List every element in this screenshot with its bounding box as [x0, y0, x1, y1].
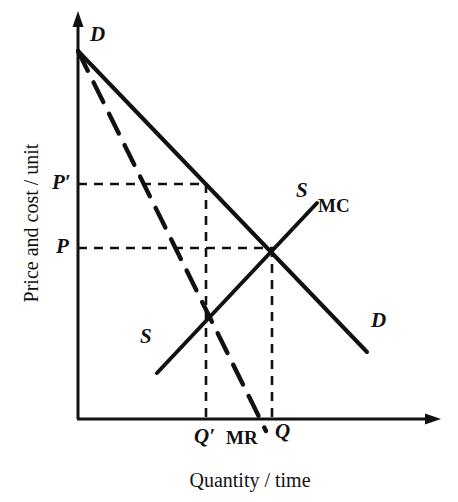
price-low-tick-label: P — [56, 236, 69, 257]
quantity-high-tick-label: Q — [275, 421, 290, 442]
price-high-letter: P — [52, 170, 65, 194]
marginal-revenue-curve-label: MR — [226, 428, 258, 447]
quantity-low-tick-label: Q′ — [194, 426, 215, 447]
supply-curve-label-left: S — [140, 326, 152, 347]
price-high-prime: ′ — [65, 170, 71, 194]
y-axis-group — [73, 11, 84, 419]
x-axis-arrowhead — [425, 414, 441, 425]
marginal-cost-curve-label: MC — [318, 196, 350, 215]
y-axis-arrowhead — [73, 11, 84, 27]
quantity-low-prime: ′ — [209, 424, 215, 448]
y-axis-title: Price and cost / unit — [21, 113, 41, 333]
economics-supply-demand-figure: Price and cost / unit Quantity / time D … — [0, 0, 458, 502]
supply-marginal-cost-curve — [157, 203, 317, 373]
demand-curve-label-end: D — [371, 310, 386, 331]
marginal-revenue-curve — [78, 51, 266, 431]
demand-curve-label-top: D — [90, 24, 105, 45]
x-axis-title: Quantity / time — [150, 470, 350, 490]
quantity-low-letter: Q — [194, 424, 209, 448]
price-high-tick-label: P′ — [52, 172, 71, 193]
supply-curve-label-right: S — [296, 180, 308, 201]
